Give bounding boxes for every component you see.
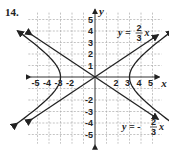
y-tick-label: -5 xyxy=(85,130,93,140)
x-tick-label: -4 xyxy=(43,78,51,88)
svg-text:y =: y = xyxy=(117,27,131,38)
y-tick-label: 5 xyxy=(88,15,93,25)
asymptote-negative-label: y = -23x xyxy=(121,117,164,137)
x-axis-label: x xyxy=(160,77,167,89)
svg-text:3: 3 xyxy=(137,33,142,43)
svg-text:x: x xyxy=(144,27,150,38)
y-tick-label: 3 xyxy=(88,38,93,48)
y-tick-label: -4 xyxy=(85,118,93,128)
x-tick-label: -3 xyxy=(54,78,62,88)
hyperbola-graph: -5-4-3-2234554321-2-3-4-5xyy =23xy = -23… xyxy=(0,0,169,151)
svg-text:y = -: y = - xyxy=(121,121,140,132)
y-tick-label: 2 xyxy=(88,49,93,59)
x-tick-label: -5 xyxy=(31,78,39,88)
y-tick-label: 1 xyxy=(88,61,93,71)
x-tick-label: 5 xyxy=(148,78,153,88)
y-axis-label: y xyxy=(97,5,104,17)
y-tick-label: -3 xyxy=(85,107,93,117)
asymptote-positive-label: y =23x xyxy=(117,23,150,43)
x-tick-label: -2 xyxy=(66,78,74,88)
x-tick-label: 2 xyxy=(113,78,118,88)
y-tick-label: 4 xyxy=(88,26,93,36)
y-tick-label: -2 xyxy=(85,95,93,105)
svg-text:2: 2 xyxy=(151,117,156,127)
svg-text:2: 2 xyxy=(137,23,142,33)
svg-text:x: x xyxy=(158,121,164,132)
svg-text:3: 3 xyxy=(151,127,156,137)
x-tick-label: 4 xyxy=(136,78,141,88)
